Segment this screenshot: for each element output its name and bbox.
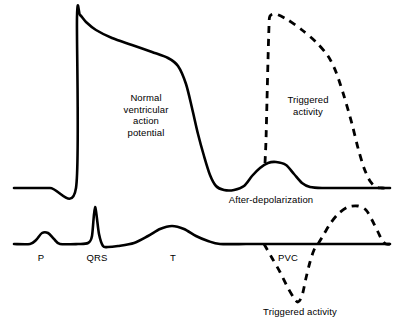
label-p-wave: P xyxy=(33,252,49,264)
label-pvc: PVC xyxy=(274,252,302,264)
surface-ecg-trace xyxy=(14,207,390,247)
label-t-wave: T xyxy=(166,252,180,264)
label-qrs-complex: QRS xyxy=(83,252,111,264)
label-after-depolarization: After-depolarization xyxy=(210,194,332,206)
label-normal-ventricular-action-potential: Normal ventricular action potential xyxy=(108,92,184,138)
cardiac-action-potential-figure: Normal ventricular action potential Trig… xyxy=(0,0,402,330)
label-triggered-activity-upper: Triggered activity xyxy=(272,94,344,117)
waveform-canvas xyxy=(0,0,402,330)
label-triggered-activity-lower: Triggered activity xyxy=(248,306,352,318)
